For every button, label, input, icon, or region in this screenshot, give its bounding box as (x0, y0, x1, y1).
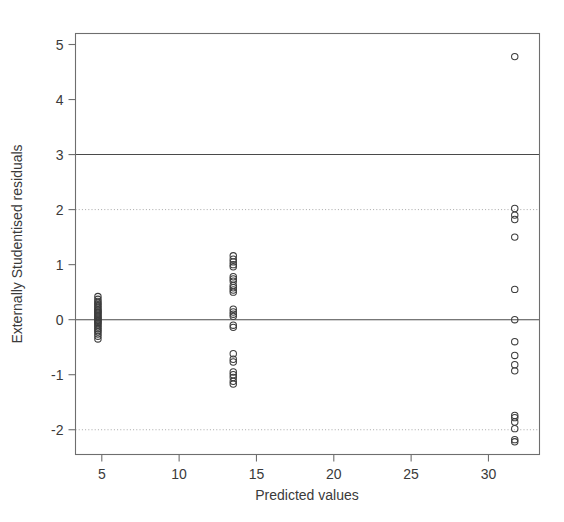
data-point (512, 352, 518, 358)
scatter-plot-figure: 51015202530 543210-1-2 Predicted values … (0, 0, 564, 522)
x-tick-label: 15 (249, 466, 265, 482)
data-point (512, 338, 518, 344)
y-tick-label: 4 (56, 92, 64, 108)
data-point (512, 53, 518, 59)
data-points-group (95, 53, 518, 445)
y-tick-label: 0 (56, 312, 64, 328)
data-point (512, 205, 518, 211)
plot-frame (76, 34, 540, 455)
data-point (512, 425, 518, 431)
y-tick-label: 5 (56, 37, 64, 53)
data-point (512, 234, 518, 240)
data-point (512, 216, 518, 222)
x-axis-title: Predicted values (255, 487, 359, 503)
y-tick-label: 2 (56, 202, 64, 218)
plot-svg: 51015202530 543210-1-2 Predicted values … (0, 0, 564, 522)
y-axis-title: Externally Studentised residuals (9, 144, 25, 343)
data-point (512, 368, 518, 374)
data-point (512, 286, 518, 292)
x-axis-ticks-group: 51015202530 (98, 455, 497, 482)
x-tick-label: 30 (481, 466, 497, 482)
x-tick-label: 5 (98, 466, 106, 482)
x-tick-label: 25 (403, 466, 419, 482)
data-point (512, 419, 518, 425)
reference-lines-group (76, 155, 540, 430)
y-tick-label: -2 (51, 422, 64, 438)
y-tick-label: 1 (56, 257, 64, 273)
y-tick-label: -1 (51, 367, 64, 383)
data-point (512, 362, 518, 368)
x-tick-label: 20 (326, 466, 342, 482)
x-tick-label: 10 (171, 466, 187, 482)
y-tick-label: 3 (56, 147, 64, 163)
y-axis-ticks-group: 543210-1-2 (51, 37, 75, 438)
